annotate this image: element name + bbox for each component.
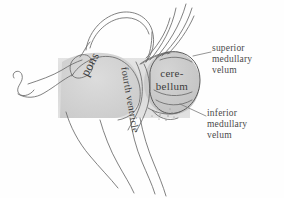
inferior-velum-line3: velum [207,130,232,140]
label-cerebellum-line2: bellum [156,80,188,92]
leader-line-superior [193,52,211,56]
medulla-mid-line [100,120,134,193]
superior-velum-line1: superior [212,43,245,53]
medulla-inner-line [140,118,166,196]
fiber-streak-3 [162,8,192,56]
label-superior-medullary-velum: superior medullary velum [212,43,252,76]
cerebellum-fissure-3 [160,57,192,62]
label-cerebellum: cere- bellum [149,67,195,92]
inferior-velum-line1: inferior [207,108,237,118]
inferior-velum-line2: medullary [207,119,247,129]
cerebrum-inner-arc [90,18,149,48]
superior-velum-line3: velum [212,65,237,75]
optic-nerve-upper [28,60,82,84]
anatomy-figure: pons fourth ventricle cere- bellum super… [0,0,284,198]
outline-layer [0,0,284,198]
superior-velum-line2: medullary [212,54,252,64]
choroid-stipple [151,108,174,120]
label-inferior-medullary-velum: inferior medullary velum [207,108,247,141]
cerebellum-fissure-2 [156,100,192,105]
label-cerebellum-line1: cere- [160,67,183,79]
medulla-anterior-edge [66,112,118,188]
